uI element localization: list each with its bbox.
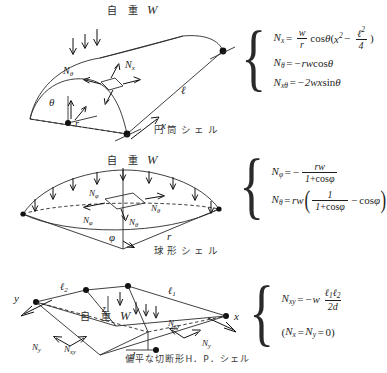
label-n-phi-lower: Nφ <box>82 215 93 226</box>
svg-text:y: y <box>13 292 19 304</box>
label-n-theta-right: Nθ <box>150 203 161 214</box>
cylindrical-load-arrows <box>70 29 101 55</box>
hp-load-title: 自 重W <box>40 308 170 324</box>
label-length-ell: ℓ <box>181 84 186 96</box>
label-n-phi-upper: Nφ <box>88 188 99 199</box>
equation-n-theta: Nθ= −rwcosθ <box>274 56 374 71</box>
hp-load-symbol: W <box>115 309 130 323</box>
equation-n-theta-sphere: Nθ=rw ( 1 1+cosφ −cosφ ) <box>272 189 387 212</box>
label-n-x: Nx <box>124 59 136 72</box>
equation-n-x-n-y-zero: (Nx =Ny =0) <box>282 325 346 340</box>
cylindrical-shell-figure: 自 重W Nx Nθ <box>0 0 375 140</box>
svg-text:x: x <box>233 310 239 322</box>
spherical-equations: { Nφ=− rw 1+cosφ Nθ=rw ( 1 1+cosφ −cosφ … <box>234 155 387 217</box>
label-edge-ell1: ℓ1 <box>168 285 176 298</box>
cylindrical-load-label: 自 重 <box>107 5 142 16</box>
hp-load-label: 自 重 <box>80 311 115 322</box>
equation-n-phi: Nφ=− rw 1+cosφ <box>272 161 387 184</box>
label-theta: θ <box>49 96 55 108</box>
spherical-caption: 球形シェル <box>0 243 375 257</box>
hp-shell-figure: d z x y ℓ2 ℓ1 <box>0 258 375 373</box>
label-n-y-right: Ny <box>201 338 211 349</box>
hp-axis-x: x <box>208 310 239 332</box>
hp-brace: { <box>249 283 274 342</box>
cylindrical-brace: { <box>241 28 266 87</box>
cylindrical-equations: { Nx= wr cosθ( x2− ℓ24 ) Nθ= −rwcosθ Nxθ… <box>236 24 374 92</box>
hp-caption: 偏平な切断形H．P．シェル <box>0 352 375 365</box>
label-edge-ell2: ℓ2 <box>60 281 68 294</box>
label-n-theta-lower: Nθ <box>128 217 139 228</box>
cylindrical-load-symbol: W <box>142 3 157 17</box>
hp-equations: { Nxy=−w ℓ1ℓ2 2d (Nx =Ny =0) <box>244 286 346 340</box>
spherical-shell-figure: 自 重W <box>0 133 375 258</box>
equation-n-x-theta: Nxθ= −2wxsinθ <box>274 76 374 91</box>
hp-force-arrows-right <box>170 329 201 339</box>
spherical-brace: { <box>239 156 264 215</box>
support-node-far <box>220 48 227 55</box>
equation-n-xy: Nxy=−w ℓ1ℓ2 2d <box>282 287 346 312</box>
label-sphere-radius: r <box>167 230 172 242</box>
equation-n-x: Nx= wr cosθ( x2− ℓ24 ) <box>274 26 374 51</box>
label-phi: φ <box>109 231 115 243</box>
